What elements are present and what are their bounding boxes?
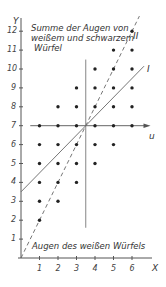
x-tick-label: 4 [93, 264, 98, 273]
data-point [38, 200, 41, 203]
data-point [38, 162, 41, 165]
data-point [56, 162, 59, 165]
data-point [38, 143, 41, 146]
y-axis-name: Y [13, 16, 19, 26]
data-point [130, 105, 133, 108]
y-tick-label: 5 [11, 159, 16, 168]
line-I-label: I [147, 64, 150, 74]
y-tick-label: 9 [11, 83, 16, 92]
data-point [112, 86, 115, 89]
y-tick-label: 7 [11, 121, 16, 130]
y-tick-label: 8 [11, 102, 16, 111]
chart-title-line3: Würfel [34, 43, 62, 53]
data-point [112, 124, 115, 127]
data-point [93, 67, 96, 70]
y-tick-label: 11 [7, 45, 17, 54]
x-tick-label: 3 [74, 264, 79, 273]
data-point [56, 181, 59, 184]
data-point [112, 143, 115, 146]
chart-title-line2: weißem und schwarzem [31, 33, 134, 43]
data-point [38, 219, 41, 222]
data-point [93, 86, 96, 89]
y-tick-label: 2 [11, 215, 16, 224]
data-point [130, 48, 133, 51]
x-axis-caption: Augen des weißen Würfels [32, 241, 145, 251]
data-point [56, 124, 59, 127]
data-point [112, 48, 115, 51]
y-tick-label: 10 [7, 64, 17, 73]
data-point [112, 105, 115, 108]
data-point [93, 124, 96, 127]
data-point [38, 181, 41, 184]
data-point [130, 124, 133, 127]
data-point [75, 124, 78, 127]
data-point [93, 143, 96, 146]
x-axis-name: X [152, 263, 158, 273]
data-point [56, 143, 59, 146]
data-point [75, 181, 78, 184]
data-point [75, 86, 78, 89]
data-point [130, 67, 133, 70]
data-point [56, 200, 59, 203]
data-point [130, 86, 133, 89]
data-point [93, 105, 96, 108]
reference-lines [30, 60, 150, 228]
y-tick-label: 1 [11, 234, 16, 243]
data-point [75, 143, 78, 146]
data-point [93, 162, 96, 165]
y-tick-label: 12 [7, 26, 17, 35]
line-I [21, 66, 144, 192]
y-tick-label: 6 [11, 140, 16, 149]
data-point [75, 105, 78, 108]
x-tick-label: 6 [130, 264, 135, 273]
x-tick-label: 2 [56, 264, 61, 273]
u-axis-arrow-icon [144, 124, 151, 128]
x-tick-label: 1 [37, 264, 42, 273]
x-tick-label: 5 [111, 264, 116, 273]
chart-title-line1: Summe der Augen von [31, 23, 129, 33]
data-point [75, 162, 78, 165]
line-II-label: II [133, 31, 138, 41]
y-tick-label: 3 [11, 196, 16, 205]
y-tick-label: 4 [11, 177, 16, 186]
data-point [38, 124, 41, 127]
u-axis-name: u [149, 131, 155, 141]
data-point [112, 67, 115, 70]
data-point [56, 105, 59, 108]
